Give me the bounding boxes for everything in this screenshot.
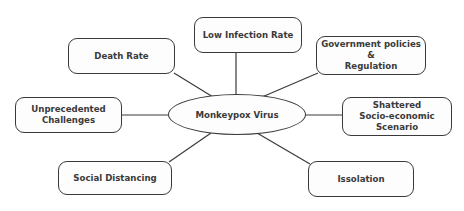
node-death-rate: Death Rate (68, 38, 175, 74)
node-shattered-socio-economic: Shattered Socio-economic Scenario (342, 97, 452, 136)
connector-social-distancing (169, 133, 211, 162)
node-unprecedented-challenges: Unprecedented Challenges (15, 97, 122, 133)
connector-government-policies (262, 73, 318, 97)
node-low-infection-rate: Low Infection Rate (194, 17, 302, 53)
node-social-distancing: Social Distancing (58, 161, 172, 195)
node-government-policies: Government policies & Regulation (316, 36, 426, 75)
connector-issolation (257, 133, 310, 164)
connector-death-rate (174, 73, 213, 97)
center-node-monkeypox-virus: Monkeypox Virus (168, 94, 306, 135)
node-issolation: Issolation (308, 161, 414, 197)
